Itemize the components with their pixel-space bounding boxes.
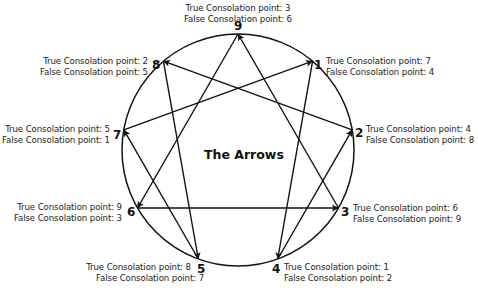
point-1-false-label: False Consolation point: 4 xyxy=(326,67,434,78)
point-3-labels: True Consolation point: 6 False Consolat… xyxy=(353,203,461,225)
point-8-labels: True Consolation point: 2 False Consolat… xyxy=(0,56,148,78)
point-8-false-label: False Consolation point: 5 xyxy=(0,67,148,78)
point-9-true-label: True Consolation point: 3 xyxy=(170,3,306,14)
point-6-false-label: False Consolation point: 3 xyxy=(0,213,122,224)
diagram-title: The Arrows xyxy=(204,147,284,162)
point-6-number: 6 xyxy=(127,206,135,218)
point-6-labels: True Consolation point: 9 False Consolat… xyxy=(0,202,122,224)
point-4-number: 4 xyxy=(272,263,280,275)
point-5-labels: True Consolation point: 8 False Consolat… xyxy=(76,262,191,284)
point-4-true-label: True Consolation point: 1 xyxy=(284,262,392,273)
point-6-true-label: True Consolation point: 9 xyxy=(0,202,122,213)
point-1-number: 1 xyxy=(314,59,322,71)
point-3-number: 3 xyxy=(341,206,349,218)
point-5-true-label: True Consolation point: 8 xyxy=(76,262,191,273)
point-7-false-label: False Consolation point: 1 xyxy=(0,135,110,146)
arrow-3-to-9 xyxy=(238,34,339,208)
point-8-number: 8 xyxy=(152,59,160,71)
point-2-labels: True Consolation point: 4 False Consolat… xyxy=(366,124,474,146)
point-7-true-label: True Consolation point: 5 xyxy=(0,124,110,135)
point-7-labels: True Consolation point: 5 False Consolat… xyxy=(0,124,110,146)
point-4-false-label: False Consolation point: 2 xyxy=(284,273,392,284)
point-1-true-label: True Consolation point: 7 xyxy=(326,56,434,67)
point-2-false-label: False Consolation point: 8 xyxy=(366,135,474,146)
point-4-labels: True Consolation point: 1 False Consolat… xyxy=(284,262,392,284)
point-9-number: 9 xyxy=(234,20,242,32)
point-2-true-label: True Consolation point: 4 xyxy=(366,124,474,135)
point-1-labels: True Consolation point: 7 False Consolat… xyxy=(326,56,434,78)
point-2-number: 2 xyxy=(355,127,363,139)
point-8-true-label: True Consolation point: 2 xyxy=(0,56,148,67)
point-7-number: 7 xyxy=(113,129,121,141)
point-5-false-label: False Consolation point: 7 xyxy=(76,273,191,284)
point-3-false-label: False Consolation point: 9 xyxy=(353,214,461,225)
point-3-true-label: True Consolation point: 6 xyxy=(353,203,461,214)
point-5-number: 5 xyxy=(197,263,205,275)
